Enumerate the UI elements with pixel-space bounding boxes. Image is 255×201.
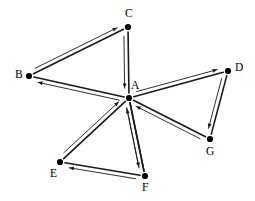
- edge-A-D: [134, 69, 223, 97]
- node-G[interactable]: [207, 136, 213, 142]
- node-label-A: A: [131, 80, 139, 92]
- edge-arrow-shaft-B-C: [35, 28, 117, 69]
- edge-arrowhead-A-B: [38, 81, 43, 85]
- node-label-F: F: [142, 182, 148, 194]
- edge-arrowhead-F-E: [69, 167, 74, 171]
- edge-line-F-A: [130, 103, 144, 171]
- edge-line-D-G: [211, 76, 226, 134]
- edge-arrowhead-C-A: [123, 83, 127, 88]
- edge-line-E-A: [64, 101, 126, 158]
- node-label-B: B: [15, 69, 23, 81]
- edge-F-A: [126, 103, 144, 171]
- node-C[interactable]: [125, 24, 131, 30]
- node-A[interactable]: [126, 95, 132, 101]
- node-E[interactable]: [57, 159, 63, 165]
- edge-A-B: [34, 77, 124, 100]
- node-label-D: D: [235, 62, 243, 74]
- edge-G-A: [133, 100, 205, 138]
- edge-arrowhead-F-A: [126, 109, 130, 114]
- edge-B-C: [33, 28, 123, 74]
- edge-line-B-C: [33, 29, 123, 74]
- edge-layer: [33, 28, 226, 179]
- edge-arrow-shaft-C-A: [124, 36, 125, 88]
- edge-D-G: [208, 76, 227, 134]
- node-B[interactable]: [26, 73, 32, 79]
- directed-graph: [0, 0, 255, 201]
- edge-line-A-D: [134, 72, 223, 96]
- node-label-E: E: [50, 168, 57, 180]
- edge-arrow-shaft-E-A: [64, 102, 119, 153]
- edge-E-A: [64, 101, 126, 158]
- edge-line-G-A: [133, 100, 205, 136]
- edge-arrow-shaft-A-D: [137, 70, 218, 92]
- node-label-C: C: [125, 8, 133, 20]
- edge-F-E: [65, 163, 140, 179]
- edge-C-A: [123, 32, 129, 93]
- edge-line-A-B: [34, 77, 124, 97]
- diagram-canvas: ABCDEFG: [0, 0, 255, 201]
- edge-line-C-A: [128, 32, 129, 93]
- node-label-G: G: [206, 146, 214, 158]
- edge-arrow-shaft-G-A: [136, 106, 200, 138]
- node-F[interactable]: [142, 173, 148, 179]
- edge-arrow-shaft-A-B: [38, 82, 119, 100]
- node-D[interactable]: [225, 68, 231, 74]
